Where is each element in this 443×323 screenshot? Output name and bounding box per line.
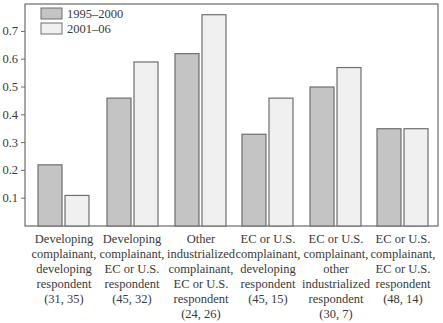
y-axis: 0.10.20.30.40.50.60.7 [2,24,25,205]
plot-frame [25,4,438,226]
bar-1995-2000 [107,98,131,226]
y-tick-label: 0.1 [2,191,18,205]
bar-2001-06 [404,129,428,226]
bar-2001-06 [134,62,158,226]
bar-1995-2000 [377,129,401,226]
legend-label: 1995–2000 [67,7,123,21]
y-tick-label: 0.4 [2,108,18,122]
bar-1995-2000 [242,134,266,226]
bar-2001-06 [65,195,89,226]
y-tick-label: 0.6 [2,52,18,66]
bar-1995-2000 [175,54,199,226]
bar-1995-2000 [38,165,62,226]
legend-label: 2001–06 [67,22,111,36]
bars [38,15,428,226]
bar-2001-06 [202,15,226,226]
legend-swatch [41,23,62,34]
bar-1995-2000 [310,87,334,226]
y-tick-label: 0.2 [2,163,18,177]
x-category-label: Developingcomplainant,EC or U.S.responde… [92,232,172,307]
bar-2001-06 [269,98,293,226]
y-tick-label: 0.5 [2,80,18,94]
legend-swatch [41,8,62,19]
y-tick-label: 0.7 [2,24,18,38]
plot-border [25,4,438,226]
y-tick-label: 0.3 [2,136,18,150]
x-category-label: EC or U.S.complainant,EC or U.S.responde… [363,232,443,307]
bar-2001-06 [337,68,361,226]
legend: 1995–20002001–06 [41,7,123,36]
